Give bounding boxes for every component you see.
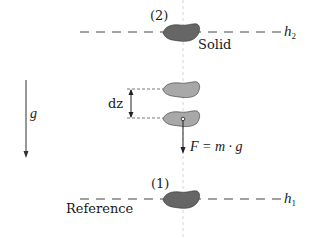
h2-label: h2 bbox=[284, 24, 296, 41]
solid-top-blob bbox=[163, 24, 200, 42]
reference-label: Reference bbox=[66, 202, 133, 215]
h1-label: h1 bbox=[284, 191, 296, 208]
gravity-label: g⃗ bbox=[30, 107, 48, 121]
solid-middle-upper-blob bbox=[163, 82, 200, 98]
solid-label: Solid bbox=[198, 38, 231, 51]
h1-label-sub: 1 bbox=[292, 198, 297, 208]
marker-1-label: (1) bbox=[151, 177, 169, 190]
h2-label-main: h bbox=[284, 23, 292, 39]
solid-bottom-blob bbox=[163, 191, 200, 209]
diagram-canvas: (2) Solid h2 dz F = m · g g⃗ (1) Referen… bbox=[0, 0, 311, 238]
force-arrowhead bbox=[181, 147, 186, 154]
h1-label-main: h bbox=[284, 190, 292, 206]
dz-label: dz bbox=[108, 97, 123, 110]
h2-label-sub: 2 bbox=[292, 31, 297, 41]
marker-2-label: (2) bbox=[150, 9, 168, 22]
force-label: F = m · g bbox=[190, 140, 243, 154]
gravity-arrowhead bbox=[24, 151, 29, 158]
dz-arrowhead-top bbox=[129, 89, 134, 95]
dz-arrowhead-bottom bbox=[129, 112, 134, 118]
